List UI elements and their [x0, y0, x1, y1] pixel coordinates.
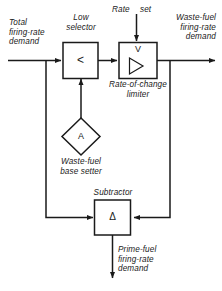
limiter-v-symbol: V	[119, 44, 157, 54]
base-setter-symbol: A	[62, 131, 100, 141]
caption-subtractor: Subtractor	[77, 188, 149, 198]
label-rate-set-rate: Rate	[112, 5, 136, 15]
low-selector-symbol: <	[63, 53, 98, 67]
caption-waste-fuel-base-setter: Waste-fuel base setter	[45, 157, 117, 176]
subtractor-symbol: Δ	[94, 211, 131, 222]
caption-low-selector: Low selector	[51, 13, 111, 32]
caption-rate-of-change-limiter: Rate-of-change limiter	[98, 80, 178, 99]
block-diagram: Total firing-rate demand Low selector < …	[0, 0, 222, 291]
label-waste-fuel-firing-rate-demand: Waste-fuel firing-rate demand	[152, 13, 216, 42]
label-prime-fuel-firing-rate-demand: Prime-fuel firing-rate demand	[118, 245, 188, 274]
